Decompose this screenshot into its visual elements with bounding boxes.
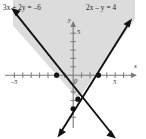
y-axis-label: y [68, 16, 71, 23]
x-axis-arrow [131, 72, 137, 78]
x-tick-label-neg5: –5 [11, 78, 18, 85]
point-x-intercept-neg2 [54, 73, 59, 78]
x-tick-label-pos5: 5 [113, 78, 116, 85]
line1-arrow-lower-right [107, 130, 117, 139]
origin-label: 0 [74, 77, 77, 84]
graph-figure: 3x + 2y = –6 2x – y = 4 –5 5 0 5 x y [0, 0, 146, 139]
shade-polygon-right [78, 0, 133, 99]
point-intersection [75, 97, 80, 102]
equation-label-right: 2x – y = 4 [86, 4, 116, 12]
coordinate-plot [0, 0, 146, 139]
point-y-intercept-neg4 [71, 106, 76, 111]
line2-arrow-lower-left [58, 128, 67, 137]
point-x-intercept-pos2 [96, 73, 101, 78]
y-tick-label-pos5: 5 [77, 28, 80, 35]
x-axis-label: x [134, 62, 137, 69]
equation-label-left: 3x + 2y = –6 [3, 4, 41, 12]
